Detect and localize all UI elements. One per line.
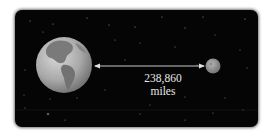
earth-icon <box>36 37 92 93</box>
distance-arrow <box>94 64 205 69</box>
space-panel: 238,860 miles <box>15 10 258 127</box>
space-scene <box>15 10 258 127</box>
distance-unit: miles <box>118 85 208 97</box>
distance-value: 238,860 <box>118 72 208 84</box>
